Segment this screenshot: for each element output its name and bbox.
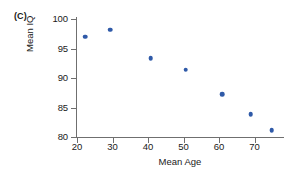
- scatter-plot-figure: (C) 80859095100 203040506070 Mean IQ Mea…: [0, 0, 296, 175]
- data-point: [183, 67, 188, 72]
- y-tick-label: 90: [58, 72, 68, 83]
- y-axis-title: Mean IQ: [24, 16, 35, 52]
- y-tick-label: 85: [58, 102, 68, 113]
- x-axis-line: [76, 137, 284, 138]
- x-tick-label: 50: [172, 141, 196, 152]
- data-point: [83, 34, 88, 39]
- data-point: [149, 56, 154, 61]
- y-tick-label: 95: [58, 43, 68, 54]
- x-tick-label: 40: [136, 141, 160, 152]
- x-tick-label: 20: [65, 141, 89, 152]
- x-tick-label: 30: [101, 141, 125, 152]
- plot-area: 80859095100 203040506070 Mean IQ Mean Ag…: [0, 0, 296, 175]
- y-tick-mark: [71, 137, 76, 138]
- y-tick-mark: [71, 78, 76, 79]
- y-tick-mark: [71, 49, 76, 50]
- data-point: [220, 92, 225, 97]
- y-tick-label: 100: [52, 13, 68, 24]
- y-tick-mark: [71, 19, 76, 20]
- data-point: [269, 128, 274, 133]
- y-tick-mark: [71, 108, 76, 109]
- x-tick-label: 70: [243, 141, 267, 152]
- data-point: [248, 112, 253, 117]
- x-axis-title: Mean Age: [76, 156, 284, 167]
- y-axis-line: [76, 17, 77, 138]
- data-point: [108, 27, 113, 32]
- x-tick-label: 60: [207, 141, 231, 152]
